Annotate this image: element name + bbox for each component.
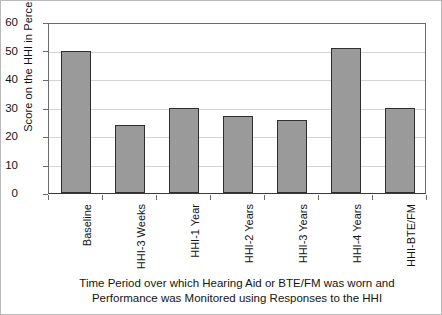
y-axis-title: Score on the HHI in Percent — [21, 0, 35, 147]
bar[interactable] — [223, 116, 253, 193]
x-axis-caption-line-2: Performance was Monitored using Response… — [48, 291, 426, 306]
bar[interactable] — [331, 48, 361, 193]
bar-chart-figure: Score on the HHI in Percent 605040302010… — [0, 0, 442, 315]
bar[interactable] — [169, 108, 199, 194]
bar[interactable] — [115, 125, 145, 193]
bar-series — [49, 24, 425, 193]
bar-slot — [211, 24, 265, 193]
x-axis-caption-line-1: Time Period over which Hearing Aid or BT… — [48, 276, 426, 291]
y-tick-label: 60 — [0, 17, 18, 28]
x-tick-mark — [264, 195, 265, 200]
x-tick-mark — [426, 195, 427, 200]
x-tick-mark — [318, 195, 319, 200]
y-tick-label: 20 — [0, 131, 18, 142]
y-tick-label: 0 — [0, 188, 18, 199]
y-tick-label: 30 — [0, 103, 18, 114]
y-tick-label: 50 — [0, 46, 18, 57]
bar-slot — [265, 24, 319, 193]
bar-slot — [373, 24, 427, 193]
bar-slot — [49, 24, 103, 193]
bar-slot — [103, 24, 157, 193]
bar-slot — [157, 24, 211, 193]
x-tick-mark — [48, 195, 49, 200]
y-tick-label: 10 — [0, 160, 18, 171]
x-tick-mark — [372, 195, 373, 200]
bar[interactable] — [385, 108, 415, 194]
x-axis-caption: Time Period over which Hearing Aid or BT… — [48, 276, 426, 305]
bar[interactable] — [61, 51, 91, 194]
x-tick-mark — [210, 195, 211, 200]
plot-area — [48, 23, 426, 194]
y-tick-label: 40 — [0, 74, 18, 85]
bar[interactable] — [277, 120, 307, 193]
bar-slot — [319, 24, 373, 193]
x-tick-mark — [156, 195, 157, 200]
x-tick-mark — [102, 195, 103, 200]
